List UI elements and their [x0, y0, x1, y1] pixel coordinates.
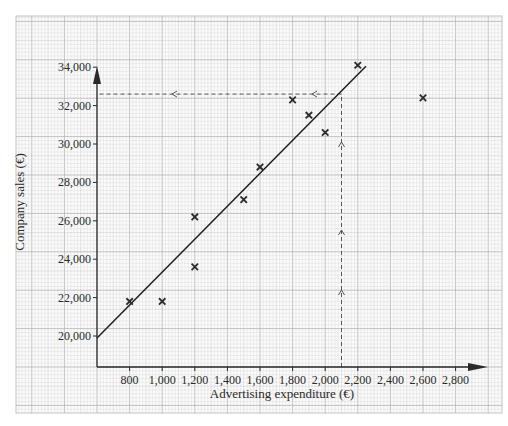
y-tick-label: 34,000 [58, 60, 91, 74]
y-tick-label: 22,000 [58, 291, 91, 305]
x-tick-label: 1,000 [149, 373, 176, 387]
scatter-chart: 20,00022,00024,00026,00028,00030,00032,0… [0, 0, 508, 426]
x-tick-label: 1,400 [214, 373, 241, 387]
x-axis-title: Advertising expenditure (€) [210, 386, 354, 401]
x-tick-label: 2,800 [442, 373, 469, 387]
x-tick-label: 2,200 [344, 373, 371, 387]
y-axis-title: Company sales (€) [12, 153, 27, 250]
x-tick-label: 800 [121, 373, 139, 387]
x-tick-label: 2,600 [410, 373, 437, 387]
y-tick-label: 20,000 [58, 329, 91, 343]
x-tick-label: 1,600 [247, 373, 274, 387]
x-tick-label: 1,800 [279, 373, 306, 387]
y-tick-label: 24,000 [58, 252, 91, 266]
x-tick-label: 1,200 [181, 373, 208, 387]
y-tick-label: 32,000 [58, 99, 91, 113]
x-tick-label: 2,000 [312, 373, 339, 387]
y-tick-label: 28,000 [58, 175, 91, 189]
y-tick-label: 30,000 [58, 137, 91, 151]
x-tick-label: 2,400 [377, 373, 404, 387]
y-tick-label: 26,000 [58, 214, 91, 228]
